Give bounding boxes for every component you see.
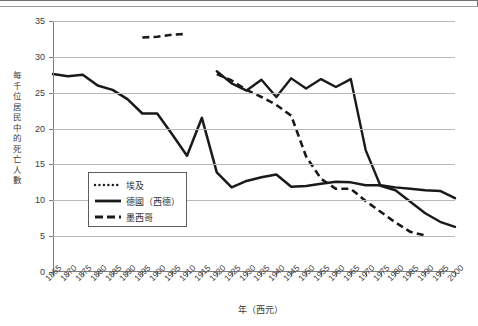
- y-axis-line: [53, 21, 54, 272]
- series-line-dashed-0: [142, 34, 187, 38]
- series-lines: [53, 21, 455, 272]
- y-axis-title: 每千位居民中的死亡人數: [9, 70, 25, 186]
- gridline: [53, 57, 455, 58]
- legend-key-mexico-icon: [94, 212, 122, 222]
- y-axis-tick-label: 35: [35, 16, 45, 26]
- legend-item-label: 德國（西德）: [126, 195, 180, 208]
- y-axis-tick-label: 25: [35, 88, 45, 98]
- legend-item: 墨西哥: [94, 209, 181, 225]
- series-line-dotted: [217, 71, 455, 227]
- legend-item-label: 埃及: [126, 179, 144, 192]
- legend-key-egypt-icon: [94, 180, 122, 190]
- legend: 埃及德國（西德）墨西哥: [88, 172, 187, 227]
- y-axis-tick-mark: [49, 57, 53, 58]
- y-axis-tick-label: 10: [35, 195, 45, 205]
- y-axis-tick-mark: [49, 236, 53, 237]
- gridline: [53, 236, 455, 237]
- gridline: [53, 93, 455, 94]
- y-axis-tick-label: 15: [35, 159, 45, 169]
- legend-key-germany-icon: [94, 196, 122, 206]
- series-line-dashed-1: [217, 74, 425, 235]
- plot-area: [53, 21, 455, 272]
- gridline: [53, 164, 455, 165]
- y-axis-tick-mark: [49, 21, 53, 22]
- legend-item: 埃及: [94, 177, 181, 193]
- mortality-line-chart: 05101520253035 每千位居民中的死亡人數 1865187018751…: [0, 0, 478, 326]
- y-axis-tick-label: 30: [35, 52, 45, 62]
- top-border-rule: [0, 0, 478, 7]
- legend-item-label: 墨西哥: [126, 211, 153, 224]
- y-axis-tick-label: 5: [40, 231, 45, 241]
- gridline: [53, 129, 455, 130]
- y-axis-tick-mark: [49, 93, 53, 94]
- y-axis-tick-mark: [49, 129, 53, 130]
- y-axis-tick-mark: [49, 164, 53, 165]
- legend-item: 德國（西德）: [94, 193, 181, 209]
- y-axis-tick-mark: [49, 200, 53, 201]
- x-axis-title: 年（西元）: [238, 303, 283, 316]
- y-axis-tick-label: 20: [35, 124, 45, 134]
- gridline: [53, 21, 455, 22]
